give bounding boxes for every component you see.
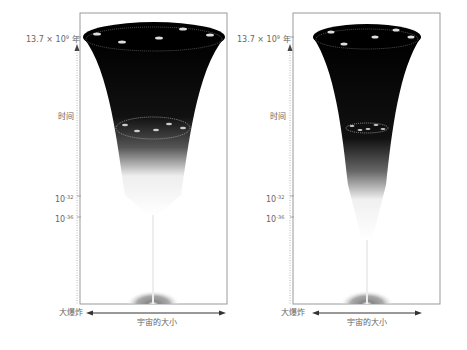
right-time-label: 时间 (270, 112, 286, 122)
right-big-bang-label: 大爆炸 (281, 308, 305, 318)
right-tick-1: 10-32 (266, 192, 284, 205)
right-funnel-graphic (0, 0, 467, 350)
funnel-body (313, 37, 421, 240)
top-ellipse (313, 24, 421, 50)
right-top-time-label: 13.7 × 109 年 (237, 32, 291, 45)
right-panel: 13.7 × 109 年 时间 10-32 10-36 大爆炸 宇宙的大小 (0, 0, 467, 350)
right-tick-2: 10-36 (266, 212, 284, 225)
time-axis-arrowhead (288, 44, 293, 51)
right-size-label: 宇宙的大小 (347, 318, 387, 328)
